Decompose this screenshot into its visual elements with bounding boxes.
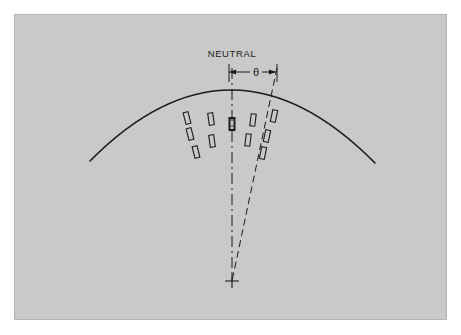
- marker-on-ray: [263, 130, 270, 143]
- marker-on-ray: [270, 110, 277, 123]
- marker-right: [250, 114, 256, 127]
- angle-label: θ: [253, 66, 259, 78]
- marker-left: [183, 112, 191, 125]
- marker-left: [209, 135, 216, 148]
- diagram-canvas: NEUTRAL θ: [0, 0, 461, 335]
- figure-root: NEUTRAL θ: [0, 0, 461, 335]
- inclined-ray: [232, 68, 277, 281]
- rectangular-markers: [183, 110, 278, 160]
- marker-right: [245, 134, 251, 147]
- marker-left: [192, 146, 200, 159]
- marker-left: [208, 113, 215, 126]
- marker-left: [186, 128, 194, 141]
- center-of-curvature-cross: [225, 274, 239, 288]
- neutral-label: NEUTRAL: [208, 48, 257, 59]
- arrowhead-right: [269, 69, 276, 74]
